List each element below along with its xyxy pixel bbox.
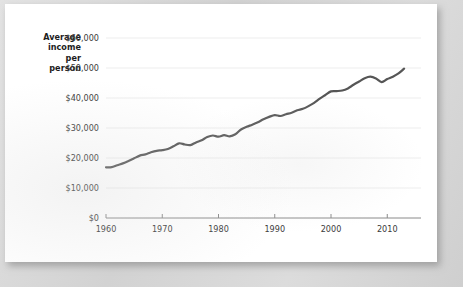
x-tick-label: 1970: [152, 224, 173, 234]
document-page: Average income per person $0$10,000$20,0…: [5, 4, 437, 262]
y-tick-label: $40,000: [66, 93, 99, 103]
y-tick-label: $10,000: [66, 183, 99, 193]
x-tick-label: 1960: [96, 224, 117, 234]
y-tick-label: $60,000: [66, 33, 99, 43]
y-tick-label: $50,000: [66, 63, 99, 73]
x-tick-label: 2010: [377, 224, 398, 234]
x-axis-group: [106, 214, 421, 218]
gridlines-group: [106, 38, 421, 188]
chart-plot-area: $0$10,000$20,000$30,000$40,000$50,000$60…: [5, 4, 437, 262]
x-tick-label-group: 196019701980199020002010: [96, 224, 398, 234]
x-tick-label: 1980: [208, 224, 229, 234]
y-tick-label: $20,000: [66, 153, 99, 163]
y-tick-label: $0: [89, 213, 99, 223]
income-line-chart: Average income per person $0$10,000$20,0…: [5, 4, 437, 262]
income-series-line: [106, 69, 404, 168]
x-tick-label: 2000: [321, 224, 342, 234]
y-tick-label: $30,000: [66, 123, 99, 133]
y-tick-label-group: $0$10,000$20,000$30,000$40,000$50,000$60…: [66, 33, 99, 223]
x-tick-label: 1990: [264, 224, 285, 234]
